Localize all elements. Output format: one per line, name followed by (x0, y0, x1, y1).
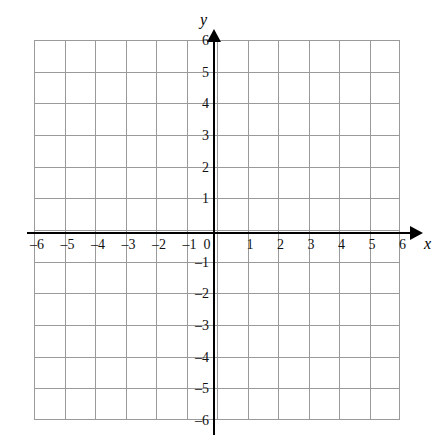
y-axis-arrow-icon (207, 29, 221, 42)
y-tick-label: 3 (195, 129, 209, 143)
y-axis-line (213, 33, 215, 435)
y-tick-label: 4 (195, 97, 209, 111)
x-tick-label: 1 (247, 238, 254, 252)
x-tick-label: –6 (30, 238, 44, 252)
y-tick-label: –1 (189, 256, 209, 270)
y-axis-label: y (200, 12, 207, 28)
y-tick-label: –6 (189, 414, 209, 428)
y-tick-label: –4 (189, 351, 209, 365)
x-axis-label: x (424, 236, 431, 252)
x-axis-arrow-icon (410, 226, 423, 240)
gridline-horizontal (34, 262, 400, 263)
x-tick-label: 4 (338, 238, 345, 252)
x-tick-label: –5 (61, 238, 75, 252)
y-tick-label: 5 (195, 66, 209, 80)
x-axis-line (27, 232, 420, 234)
gridline-horizontal (34, 293, 400, 294)
x-tick-label: –2 (152, 238, 166, 252)
x-tick-label: –4 (91, 238, 105, 252)
x-tick-label: 3 (308, 238, 315, 252)
y-tick-label: –2 (189, 287, 209, 301)
gridline-horizontal (34, 419, 400, 420)
grid-area (34, 40, 400, 420)
gridline-horizontal (34, 357, 400, 358)
gridline-horizontal (34, 135, 400, 136)
y-tick-label: –5 (189, 382, 209, 396)
gridline-horizontal (34, 72, 400, 73)
gridline-horizontal (34, 325, 400, 326)
x-tick-label: –3 (122, 238, 136, 252)
gridline-horizontal (34, 198, 400, 199)
gridline-horizontal (34, 388, 400, 389)
x-tick-label: –1 (183, 238, 197, 252)
x-tick-label: 6 (399, 238, 406, 252)
x-tick-label: 5 (369, 238, 376, 252)
y-tick-label: 2 (195, 161, 209, 175)
gridline-horizontal (34, 230, 400, 231)
y-tick-label: –3 (189, 319, 209, 333)
x-tick-label: 2 (277, 238, 284, 252)
coordinate-grid-figure: x y –6 –5 –4 –3 –2 –1 0 1 2 3 4 5 6 6 5 … (0, 0, 445, 448)
x-tick-label-origin: 0 (204, 238, 211, 252)
gridline-horizontal (34, 167, 400, 168)
y-tick-label: 1 (195, 192, 209, 206)
gridline-horizontal (34, 103, 400, 104)
y-tick-label: 6 (195, 34, 209, 48)
